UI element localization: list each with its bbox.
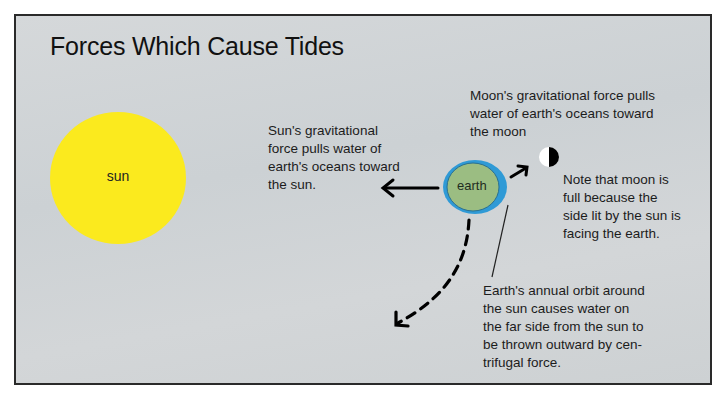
orbit-leader-line (492, 205, 508, 277)
arrow-centrifugal-icon (396, 220, 469, 326)
diagram-graphics (0, 0, 722, 395)
arrow-toward-moon-icon (511, 166, 527, 177)
earth-label: earth (457, 178, 487, 193)
arrow-toward-sun-icon (383, 180, 438, 196)
moon-icon (539, 147, 559, 167)
